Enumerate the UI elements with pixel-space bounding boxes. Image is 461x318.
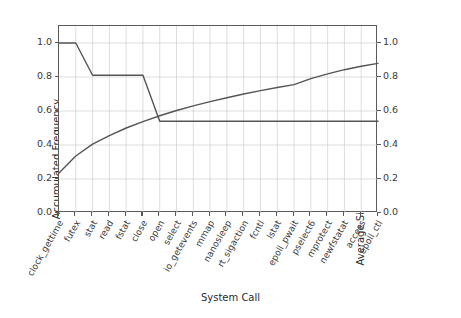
x-tick-mark xyxy=(125,212,126,216)
x-tick-mark xyxy=(58,212,59,216)
y-tick-mark-right xyxy=(377,144,381,145)
y-tick-label-left: 0.8 xyxy=(26,70,52,81)
x-tick-mark xyxy=(343,212,344,216)
x-tick-mark xyxy=(225,212,226,216)
figure: Accumulated Frequency Average Size of Ch… xyxy=(0,0,461,318)
y-tick-label-left: 1.0 xyxy=(26,36,52,47)
y-tick-mark-left xyxy=(55,42,59,43)
y-tick-mark-left xyxy=(55,144,59,145)
data-lines xyxy=(59,26,376,211)
series-line xyxy=(59,43,378,121)
y-tick-label-right: 0.0 xyxy=(383,206,398,217)
y-tick-label-left: 0.0 xyxy=(26,206,52,217)
x-tick-mark xyxy=(158,212,159,216)
y-tick-mark-right xyxy=(377,76,381,77)
x-tick-mark xyxy=(242,212,243,216)
y-tick-label-left: 0.2 xyxy=(26,172,52,183)
y-tick-mark-left xyxy=(55,76,59,77)
y-tick-label-right: 0.8 xyxy=(383,70,398,81)
y-tick-mark-right xyxy=(377,42,381,43)
x-tick-mark xyxy=(276,212,277,216)
plot-area xyxy=(58,25,377,212)
y-tick-mark-left xyxy=(55,178,59,179)
y-tick-mark-right xyxy=(377,110,381,111)
x-tick-mark xyxy=(175,212,176,216)
y-tick-label-right: 0.6 xyxy=(383,104,398,115)
x-tick-mark xyxy=(293,212,294,216)
y-tick-label-right: 0.2 xyxy=(383,172,398,183)
series-line xyxy=(59,63,378,173)
x-tick-mark xyxy=(309,212,310,216)
x-tick-mark xyxy=(259,212,260,216)
y-tick-label-left: 0.6 xyxy=(26,104,52,115)
y-tick-mark-right xyxy=(377,178,381,179)
x-tick-mark xyxy=(326,212,327,216)
x-tick-mark xyxy=(141,212,142,216)
x-tick-mark xyxy=(209,212,210,216)
y-tick-label-right: 1.0 xyxy=(383,36,398,47)
x-tick-mark xyxy=(192,212,193,216)
x-tick-mark xyxy=(91,212,92,216)
x-tick-mark xyxy=(360,212,361,216)
x-tick-mark xyxy=(74,212,75,216)
x-tick-mark xyxy=(108,212,109,216)
x-tick-mark xyxy=(377,212,378,216)
y-tick-label-left: 0.4 xyxy=(26,138,52,149)
y-tick-mark-left xyxy=(55,110,59,111)
y-tick-label-right: 0.4 xyxy=(383,138,398,149)
